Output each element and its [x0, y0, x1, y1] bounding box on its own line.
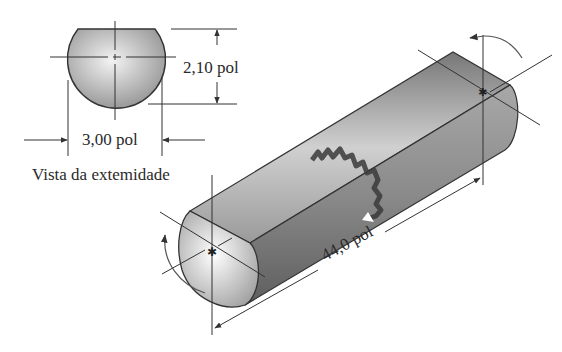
end-view-caption: Vista da extemidade [32, 165, 170, 185]
svg-text:✱: ✱ [207, 245, 217, 259]
svg-text:✱: ✱ [478, 86, 487, 99]
shaft: ✱ ✱ [160, 35, 552, 335]
width-dimension-label: 3,00 pol [82, 130, 138, 150]
torque-arrow-right [484, 36, 522, 58]
figure: ✱ ✱ 2,10 pol 3,00 pol Vista da extemidad… [0, 0, 562, 352]
height-dimension-label: 2,10 pol [183, 58, 239, 78]
end-view-section [68, 29, 166, 108]
